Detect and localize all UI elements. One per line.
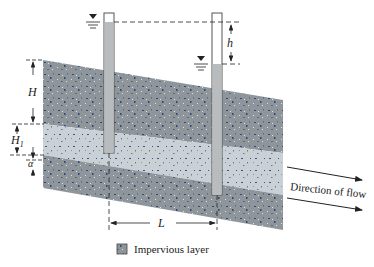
water-level-icon (86, 14, 100, 28)
h-dimension: h (227, 25, 233, 61)
left-dimensions (10, 60, 44, 176)
H1-label: H1 (10, 133, 24, 149)
alpha-label: α (28, 158, 34, 169)
legend-label: Impervious layer (134, 243, 209, 255)
H-label: H (27, 85, 38, 99)
L-label: L (157, 216, 165, 230)
legend: Impervious layer (117, 243, 209, 255)
impervious-swatch-icon (117, 244, 127, 254)
confined-aquifer-diagram: h L H H1 α Direction of flow Impervious … (0, 0, 374, 267)
right-piezometer (212, 13, 222, 195)
h-label: h (227, 36, 233, 50)
left-piezometer (104, 13, 114, 153)
water-level-icon (194, 56, 208, 70)
flow-arrow-bottom (287, 198, 362, 210)
L-dimension: L (111, 216, 215, 230)
flow-arrow-top (287, 167, 362, 180)
flow-label: Direction of flow (290, 180, 367, 200)
